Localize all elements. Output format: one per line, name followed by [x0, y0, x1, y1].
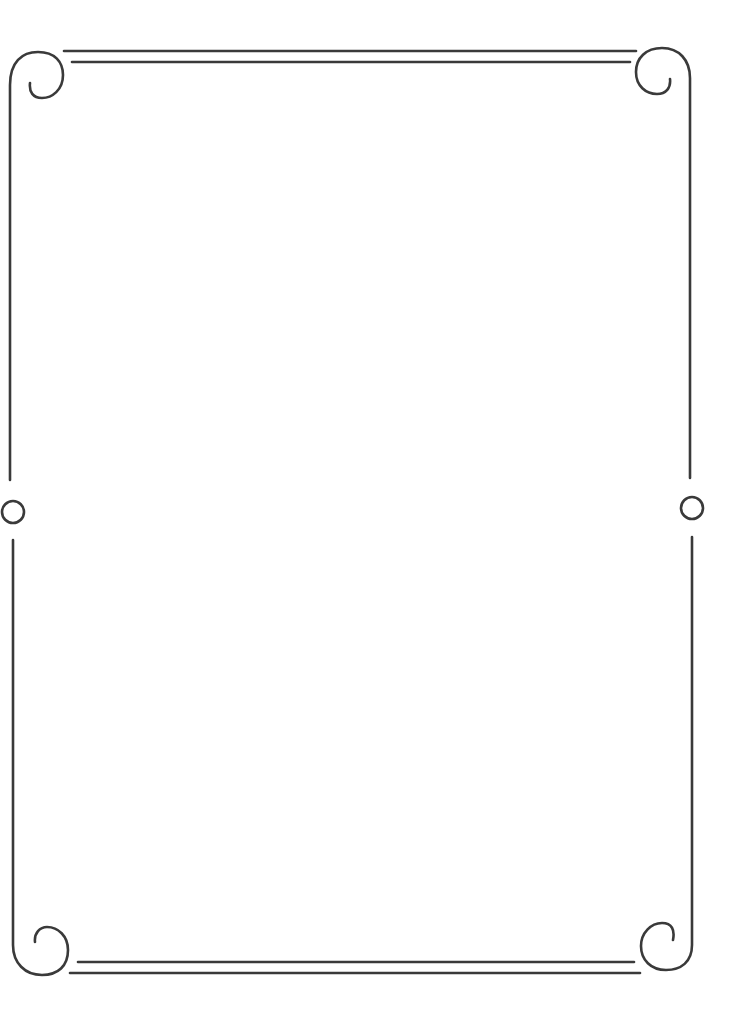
- top-double-rule: [64, 51, 636, 62]
- left-ring-icon: [2, 501, 24, 523]
- bottom-double-rule: [70, 962, 640, 973]
- frame-content-area: [40, 80, 700, 940]
